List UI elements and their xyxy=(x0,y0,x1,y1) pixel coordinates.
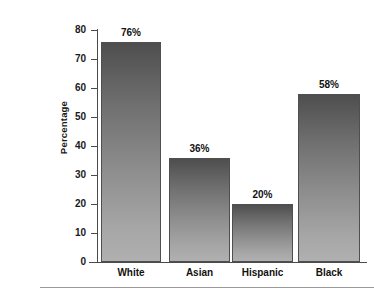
bar-chart: Percentage 80706050403020100 76%36%20%58… xyxy=(40,16,374,292)
bar-value-label: 58% xyxy=(298,80,360,90)
x-axis-category-label: Asian xyxy=(169,268,230,278)
bar[interactable] xyxy=(169,158,230,262)
y-axis-tick-label: 30 xyxy=(40,170,86,180)
y-axis-tick-label: 80 xyxy=(40,25,86,35)
bar-value-label: 76% xyxy=(101,28,161,38)
bottom-divider xyxy=(40,287,374,288)
bar[interactable] xyxy=(232,204,293,262)
bar[interactable] xyxy=(101,42,161,262)
x-axis-category-label: Black xyxy=(298,268,360,278)
x-axis-category-label: White xyxy=(101,268,161,278)
plot-area xyxy=(97,30,365,262)
y-axis-title: Percentage xyxy=(58,83,69,173)
y-axis-tick-label: 40 xyxy=(40,141,86,151)
bar[interactable] xyxy=(298,94,360,262)
y-axis-tick-label: 0 xyxy=(40,257,86,267)
y-axis-tick-label: 70 xyxy=(40,54,86,64)
x-axis-category-label: Hispanic xyxy=(232,268,293,278)
bar-value-label: 20% xyxy=(232,190,293,200)
x-axis-line xyxy=(89,262,367,263)
bar-value-label: 36% xyxy=(169,144,230,154)
y-axis-tick-label: 50 xyxy=(40,112,86,122)
y-axis-tick-label: 10 xyxy=(40,228,86,238)
y-axis-tick-label: 60 xyxy=(40,83,86,93)
y-axis-tick-label: 20 xyxy=(40,199,86,209)
